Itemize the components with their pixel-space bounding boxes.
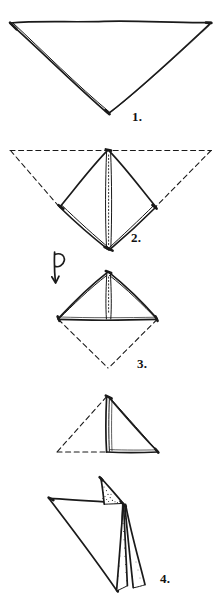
step-4-dashed-left-slope — [57, 397, 107, 452]
step-4-figure — [57, 396, 158, 453]
step-3-number: 3. — [137, 357, 147, 370]
step-1-paper-face — [10, 23, 211, 113]
step-2-dashed-left-fold — [11, 151, 60, 207]
step-5-figure — [49, 477, 145, 592]
turn-over-arrow-loop — [55, 254, 65, 267]
step-1-figure — [10, 21, 211, 114]
step-3-dashed-right-fold — [109, 320, 157, 369]
step-4-spine-outer — [106, 397, 107, 452]
step-1-number: 1. — [132, 110, 142, 123]
step-2-dashed-right-fold — [156, 151, 211, 207]
step-2-number: 2. — [131, 231, 141, 244]
diagram-sheet: 1. 2. 3. 4. — [0, 0, 223, 602]
step-2-paper-face — [60, 150, 156, 250]
step-3-base-edge-outer — [58, 319, 157, 320]
step-3-dashed-left-fold — [59, 320, 109, 369]
step-2-top-vertex-accent — [106, 149, 111, 150]
step-1-top-edge — [10, 21, 211, 23]
napkin-fold-illustration — [0, 0, 223, 602]
step-2-figure — [10, 149, 212, 250]
step-3-paper-face — [58, 272, 157, 319]
step-3-figure — [58, 271, 158, 368]
step-5-pocket-tip-accent — [100, 477, 103, 480]
turn-over-arrow-icon — [52, 252, 65, 283]
step-5-number: 4. — [160, 572, 170, 585]
step-4-base-outer — [107, 452, 158, 453]
step-3-left-corner-accent — [58, 316, 60, 320]
